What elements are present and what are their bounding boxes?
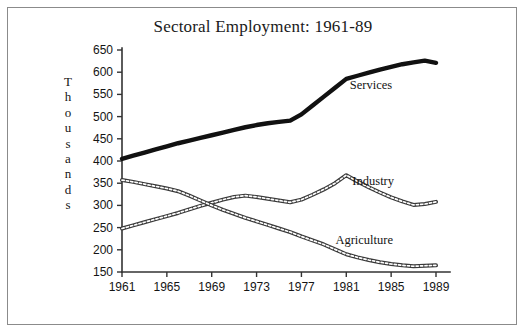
y-axis-ticks: 150200250300350400450500550600650	[93, 43, 122, 279]
series-line-services	[122, 61, 436, 159]
x-tick-label: 1977	[288, 280, 315, 294]
axis-lines	[122, 48, 450, 272]
x-tick-label: 1961	[109, 280, 136, 294]
x-tick-label: 1989	[423, 280, 450, 294]
y-tick-label: 250	[93, 221, 113, 235]
series-label-industry: Industry	[352, 174, 394, 188]
y-tick-label: 200	[93, 243, 113, 257]
y-tick-label: 350	[93, 176, 113, 190]
plot-area: 150200250300350400450500550600650 196119…	[0, 0, 526, 333]
series-label-services: Services	[350, 78, 392, 92]
y-tick-label: 300	[93, 198, 113, 212]
y-tick-label: 550	[93, 87, 113, 101]
chart-figure: Sectoral Employment: 1961-89 T h o u s a…	[0, 0, 526, 333]
series-inline-labels: ServicesIndustryAgriculture	[335, 78, 394, 247]
x-tick-label: 1981	[333, 280, 360, 294]
y-tick-label: 650	[93, 43, 113, 57]
y-tick-label: 450	[93, 132, 113, 146]
x-tick-label: 1985	[378, 280, 405, 294]
x-axis-ticks: 19611965196919731977198119851989	[109, 272, 450, 294]
y-tick-label: 150	[93, 265, 113, 279]
x-tick-label: 1973	[243, 280, 270, 294]
y-tick-label: 500	[93, 110, 113, 124]
y-tick-label: 600	[93, 65, 113, 79]
y-tick-label: 400	[93, 154, 113, 168]
series-label-agriculture: Agriculture	[335, 233, 393, 247]
series-line-agriculture	[122, 180, 436, 266]
series-line-highlight-agriculture	[122, 180, 436, 266]
x-tick-label: 1965	[154, 280, 181, 294]
x-tick-label: 1969	[198, 280, 225, 294]
